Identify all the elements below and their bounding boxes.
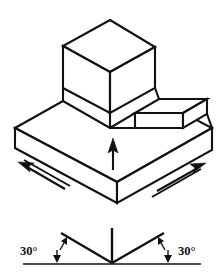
thirty-degree-angle-reference: 30° 30° [20,228,201,264]
right-angle-label: 30° [178,244,196,258]
raised-step-riser-face [135,113,183,128]
left-angle-label: 30° [20,244,38,258]
figure-canvas: 30° 30° [0,0,224,279]
right-angle-dimension-ticks [158,237,172,263]
top-cube-base-right-edge [155,88,159,99]
left-angle-lower-tick-head [53,255,61,263]
angle-reference-left-axis-line [61,233,112,263]
isometric-projection-diagram: 30° 30° [0,0,224,279]
left-angle-dimension-ticks [53,237,67,263]
angle-reference-right-axis-line [112,233,164,263]
right-angle-lower-tick-head [164,255,172,263]
